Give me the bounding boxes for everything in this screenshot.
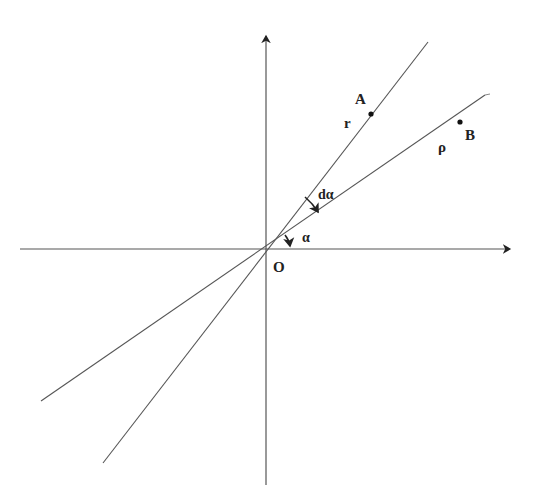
point-b-label: B	[465, 127, 475, 143]
polar-angle-diagram: O A B r ρ α dα	[0, 0, 543, 500]
angle-alpha-arc	[285, 235, 290, 246]
point-b	[457, 119, 462, 124]
origin-label: O	[273, 259, 285, 275]
ray-rho	[41, 95, 485, 401]
ray-rho-label: ρ	[438, 139, 446, 155]
angle-dalpha-label: dα	[318, 187, 334, 202]
ray-r-label: r	[344, 115, 351, 131]
point-a-label: A	[355, 91, 366, 107]
ray-rho-tick	[485, 94, 490, 95]
angle-dalpha-arc	[305, 197, 318, 212]
angle-alpha-label: α	[302, 230, 310, 245]
point-a	[368, 111, 373, 116]
